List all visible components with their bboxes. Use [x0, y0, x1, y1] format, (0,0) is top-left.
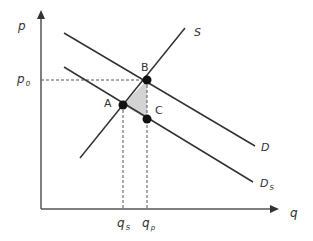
- p0-sub: 0: [26, 80, 30, 88]
- demand-curve-label: D: [261, 142, 269, 153]
- point-A-label: A: [104, 98, 112, 109]
- qs-sub: S: [126, 224, 130, 232]
- shifted-demand-curve-label: DS: [260, 178, 274, 189]
- ds-main: D: [260, 177, 268, 190]
- x-axis-arrow-icon: [270, 205, 279, 213]
- point-C-marker: [143, 115, 152, 124]
- ds-sub: S: [269, 184, 273, 192]
- price-level-p0-label: p0: [17, 73, 30, 85]
- qp-main: q: [142, 216, 150, 230]
- demand-curve-D: [64, 33, 255, 146]
- p0-main: p: [17, 72, 25, 86]
- qs-main: q: [117, 216, 125, 230]
- supply-curve-S: [80, 28, 185, 158]
- quantity-level-qs-label: qS: [117, 217, 130, 229]
- x-axis-label: q: [290, 207, 298, 219]
- diagram-canvas: [0, 0, 313, 241]
- supply-demand-diagram: p q p0 qS qp S D DS A B C: [0, 0, 313, 241]
- supply-curve-label: S: [194, 27, 201, 38]
- y-axis-arrow-icon: [37, 10, 45, 19]
- quantity-level-qp-label: qp: [142, 217, 155, 229]
- point-B-marker: [143, 76, 152, 85]
- point-C-label: C: [155, 105, 163, 116]
- qp-sub: p: [151, 224, 155, 232]
- point-A-marker: [119, 101, 128, 110]
- demand-curve-Ds: [64, 67, 253, 182]
- point-B-label: B: [141, 62, 149, 73]
- y-axis-label: p: [18, 20, 26, 32]
